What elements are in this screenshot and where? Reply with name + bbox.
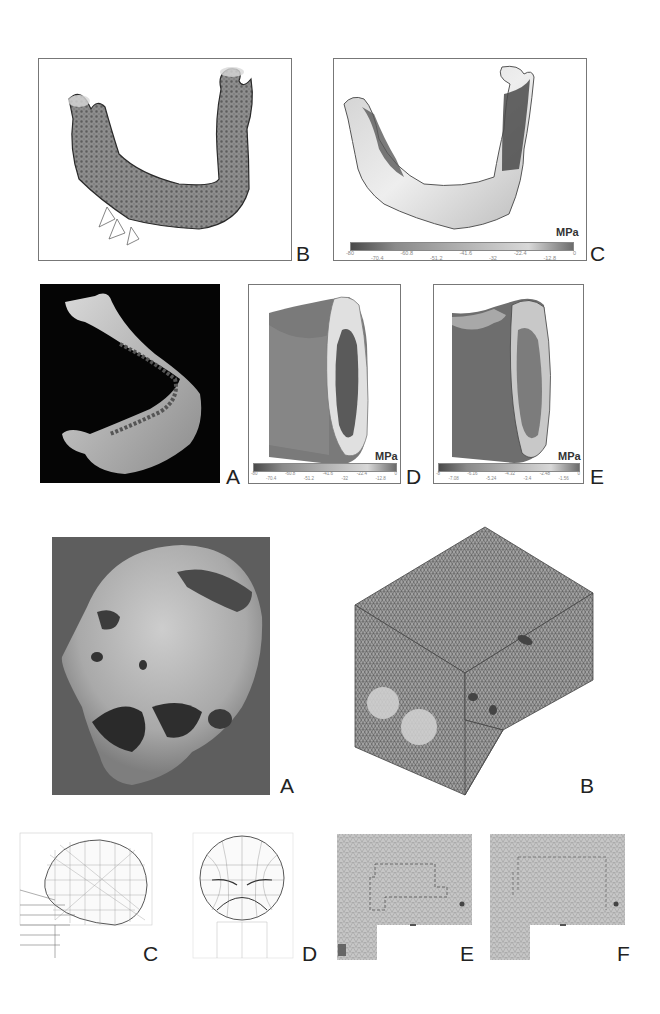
panel-label-c: C [143, 943, 158, 964]
colorbar-ticks: -80 -70.4 -60.8 -51.2 -41.6 -32 -22.4 -1… [251, 471, 397, 476]
panel-label-c: C [590, 243, 605, 264]
unit-label: MPa [558, 450, 581, 462]
colorbar-ticks: -8 -7.08 -6.16 -5.24 -4.32 -3.4 -2.48 -1… [436, 471, 580, 476]
mesh-section-e [335, 832, 475, 962]
panel-top-e: MPa -8 -7.08 -6.16 -5.24 -4.32 -3.4 -2.4… [433, 284, 584, 484]
panel-label-a: A [226, 466, 240, 487]
mandible-stress-image [334, 59, 587, 261]
panel-label-f: F [617, 943, 630, 964]
panel-top-a [40, 284, 220, 483]
panel-bottom-c [15, 830, 155, 960]
panel-top-d: MPa -80 -70.4 -60.8 -51.2 -41.6 -32 -22.… [248, 284, 401, 484]
skull-wireframe-lateral [15, 830, 155, 960]
panel-bottom-b [335, 525, 625, 810]
unit-label: MPa [556, 226, 579, 238]
panel-bottom-e [335, 832, 475, 962]
panel-top-c: MPa -80 -70.4 -60.8 -51.2 -41.6 -32 -22.… [333, 58, 587, 261]
skull-wireframe-frontal [192, 830, 302, 960]
panel-label-e: E [590, 466, 604, 487]
mandible-3d-image [40, 284, 220, 483]
panel-label-d: D [406, 466, 421, 487]
panel-label-d: D [302, 943, 317, 964]
unit-label: MPa [375, 450, 398, 462]
mandible-mesh-image [39, 59, 292, 261]
panel-label-a: A [280, 775, 294, 796]
skull-photo [52, 537, 270, 795]
colorbar-ticks: -80 -70.4 -60.8 -51.2 -41.6 -32 -22.4 -1… [346, 250, 576, 256]
mesh-section-f [488, 832, 628, 962]
panel-bottom-a [52, 537, 270, 795]
panel-bottom-d [192, 830, 302, 960]
panel-top-b [38, 58, 292, 261]
panel-bottom-f [488, 832, 628, 962]
block-mesh-model [335, 525, 625, 810]
panel-label-b: B [580, 775, 594, 796]
panel-label-e: E [460, 943, 474, 964]
panel-label-b: B [296, 243, 310, 264]
